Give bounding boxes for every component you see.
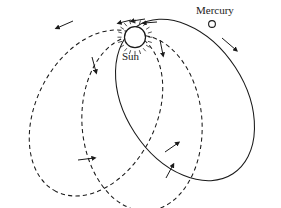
mercury-marker	[209, 21, 216, 28]
orbit-canvas	[0, 0, 281, 208]
mercury-precession-diagram: Mercury Sun	[0, 0, 281, 208]
arrow-icon-intermediate-lower-right	[165, 143, 178, 152]
direction-arrows-current	[144, 22, 236, 178]
orbit-ellipse-3-current	[87, 0, 281, 206]
sun-disc	[125, 27, 146, 48]
orbit-ellipse-2-intermediate	[76, 31, 208, 208]
direction-arrows-earliest	[57, 20, 131, 160]
sun-label: Sun	[122, 50, 139, 62]
arrow-icon-earliest-lower	[78, 158, 94, 160]
arrow-icon-intermediate-left	[92, 57, 96, 72]
arrow-icon-earliest-perihelion	[119, 20, 131, 23]
orbit-path-intermediate	[76, 31, 208, 208]
arrow-icon-earliest-upper-left	[57, 21, 73, 28]
orbit-path-earliest	[3, 7, 190, 208]
planet-marker-icon	[209, 21, 216, 28]
orbit-ellipse-1-earliest	[3, 7, 190, 208]
orbit-group	[3, 0, 281, 208]
arrow-icon-intermediate-perihelion	[132, 19, 145, 21]
mercury-label: Mercury	[196, 4, 234, 16]
arrow-icon-current-near-mercury	[222, 38, 236, 50]
orbit-path-current	[87, 0, 281, 206]
